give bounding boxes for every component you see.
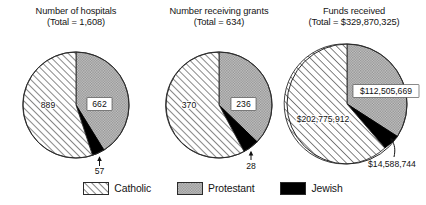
pie-panel-funds: Funds received (Total = $329,870,325) $2… [282,0,426,176]
legend-swatch-jewish [280,182,306,195]
panel-title-line2: (Total = $329,870,325) [282,17,426,28]
panel-title-line1: Number of hospitals [36,6,117,16]
legend-swatch-catholic [83,182,109,195]
legend-swatch-protestant [177,182,203,195]
panel-title-line2: (Total = 1,608) [0,17,152,28]
legend-entry-jewish: Jewish [280,182,342,195]
slice-label-protestant: 236 [236,99,251,109]
callout-arrowhead-jewish [97,156,102,161]
callout-arrowhead-jewish [249,151,254,156]
legend-label-protestant: Protestant [208,183,254,194]
panel-title-grants: Number receiving grants (Total = 634) [143,6,295,29]
legend-entry-catholic: Catholic [83,182,151,195]
legend-label-catholic: Catholic [114,183,151,194]
legend-entry-protestant: Protestant [177,182,254,195]
panel-title-line1: Number receiving grants [170,6,269,16]
pie-panel-grants: Number receiving grants (Total = 634) 37… [143,0,295,176]
pie-chart-figure: Number of hospitals (Total = 1,608) 889 … [0,0,426,205]
slice-label-catholic: 889 [41,100,56,110]
slice-label-catholic: 370 [182,100,197,110]
panel-title-line2: (Total = 634) [143,17,295,28]
slice-label-catholic: $202,775,912 [297,114,350,124]
callout-label-jewish: 28 [246,161,256,171]
legend-label-jewish: Jewish [311,183,342,194]
chart-legend: Catholic Protestant Jewish [0,176,426,200]
slice-label-protestant: 662 [92,99,107,109]
panel-title-line1: Funds received [323,6,385,16]
panel-title-funds: Funds received (Total = $329,870,325) [282,6,426,29]
pie-panel-hospitals: Number of hospitals (Total = 1,608) 889 … [0,0,152,176]
panel-title-hospitals: Number of hospitals (Total = 1,608) [0,6,152,29]
callout-label-jewish: 57 [95,166,105,176]
slice-label-protestant: $112,505,669 [360,86,412,96]
callout-label-jewish: $14,588,744 [368,159,416,169]
